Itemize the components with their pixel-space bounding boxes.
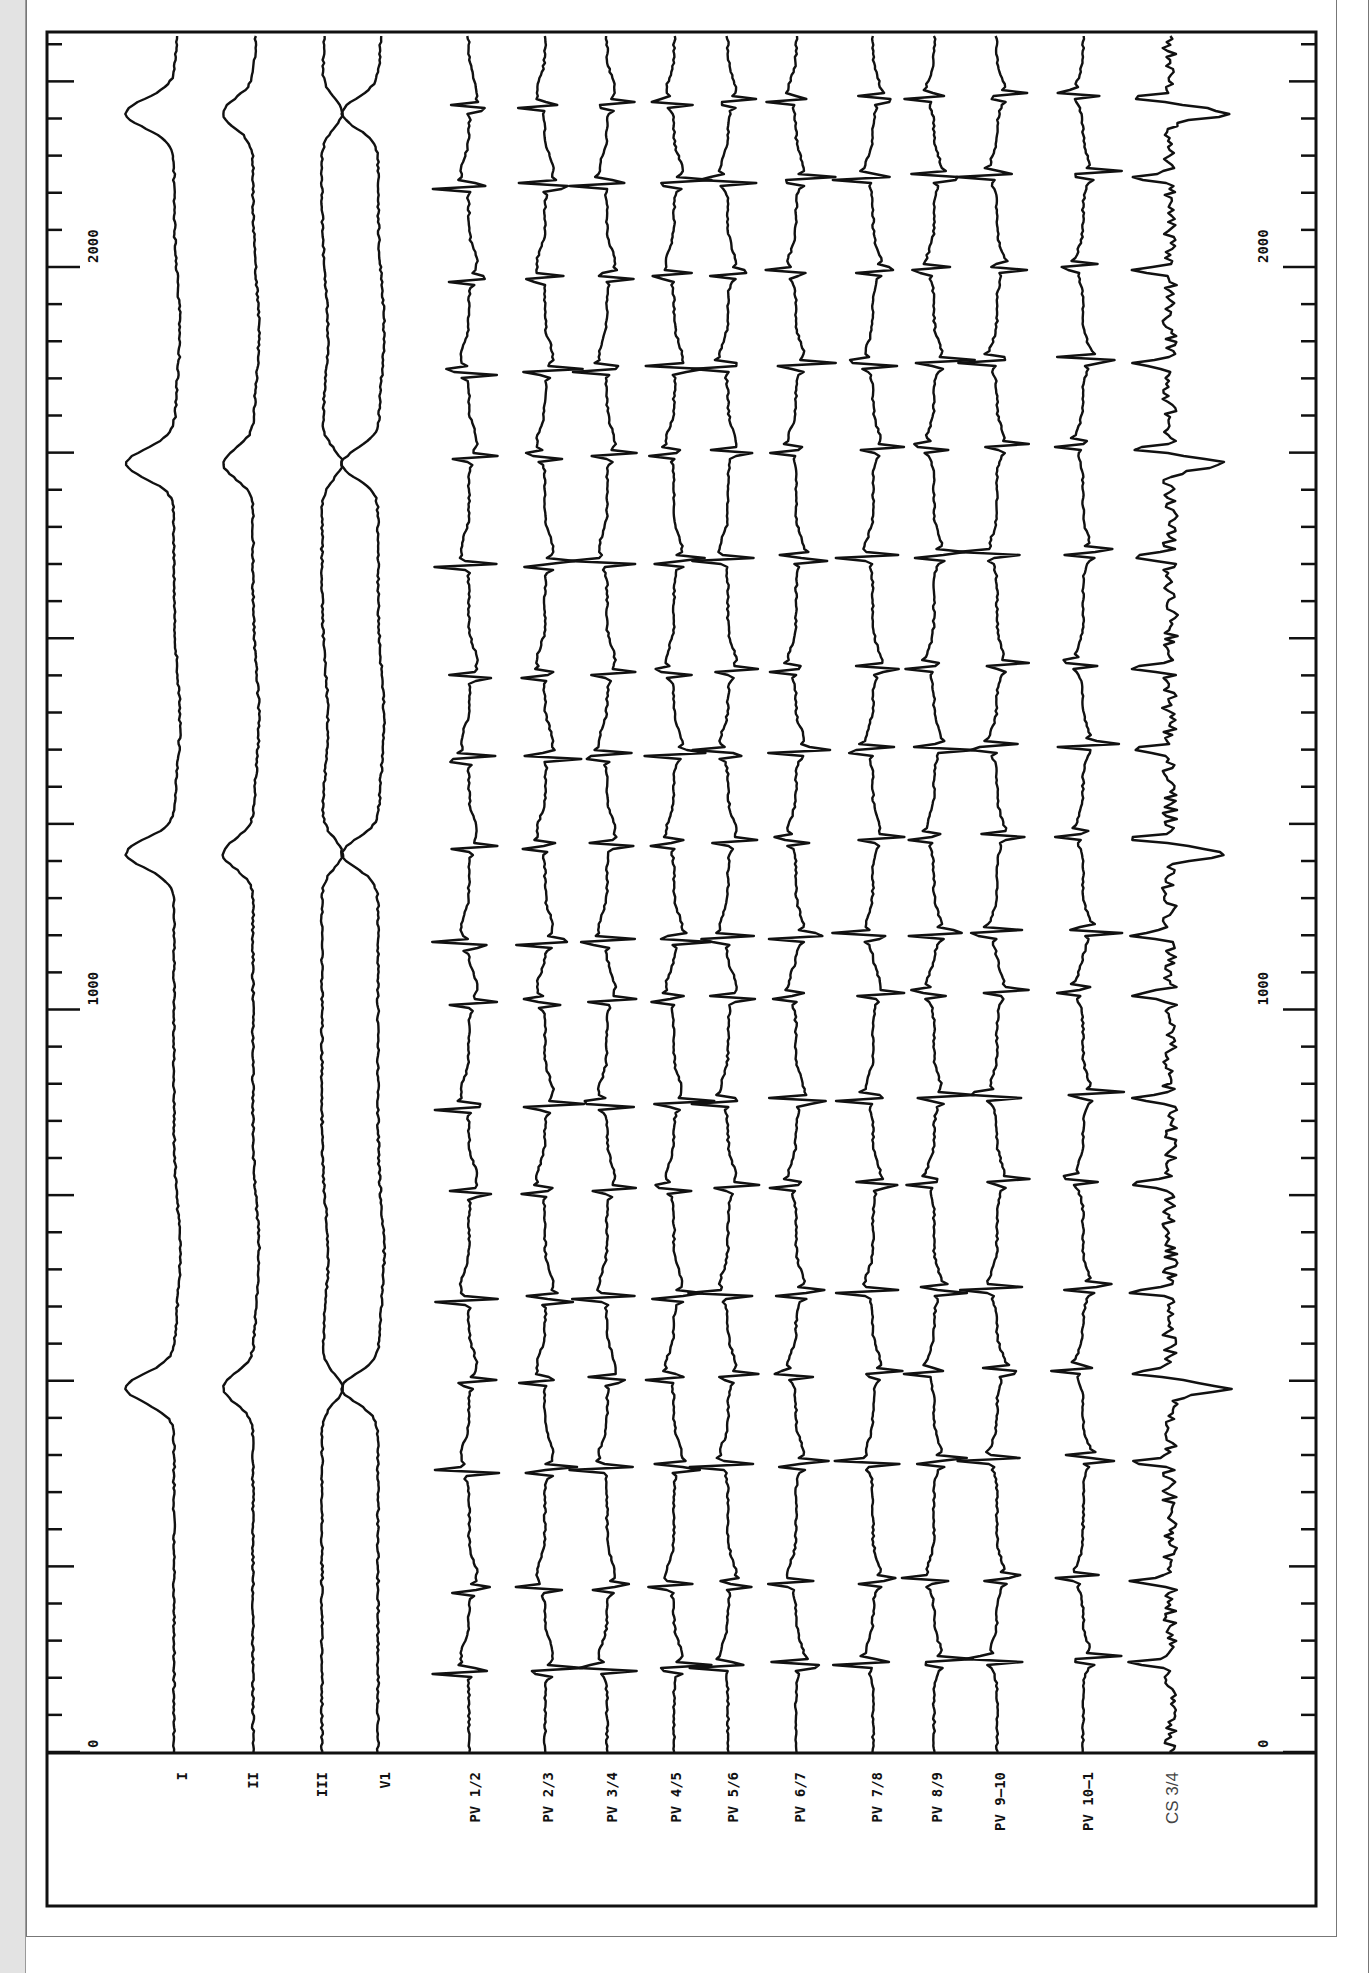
trace-pv-4-5 [645,36,715,1752]
trace-pv-7-8 [832,36,904,1752]
trace-pv-1-2 [432,36,499,1752]
traces [125,36,1231,1752]
channel-labels: IIIIIIV1PV 1/2PV 2/3PV 3/4PV 4/5PV 5/6PV… [174,1772,1182,1831]
trace-pv-9-10 [956,36,1029,1752]
time-axis-left: 010002000 [48,44,101,1752]
trace-pv-3-4 [569,36,636,1752]
channel-label: PV 8/9 [929,1772,945,1823]
trace-pv-5-6 [688,36,759,1752]
plot-border [47,32,1316,1906]
trace-pv-10-1 [1051,36,1124,1752]
channel-label: V1 [377,1772,393,1789]
channel-label: PV 7/8 [869,1772,885,1823]
channel-label: PV 10–1 [1080,1772,1096,1831]
channel-label: PV 9–10 [992,1772,1008,1831]
trace-i [125,36,181,1752]
ecg-chart: 010002000 010002000 IIIIIIV1PV 1/2PV 2/3… [0,0,1371,1973]
trace-iii [321,36,343,1752]
trace-pv-6-7 [766,36,836,1752]
channel-label: PV 6/7 [792,1772,808,1823]
channel-label: CS 3/4 [1163,1772,1182,1824]
trace-v1 [341,36,385,1752]
channel-label: I [174,1772,190,1780]
channel-label: PV 3/4 [604,1772,620,1823]
trace-pv-8-9 [902,36,975,1752]
tick-label-left: 2000 [85,229,101,263]
time-axis-right: 010002000 [1255,44,1315,1752]
channel-label: PV 5/6 [725,1772,741,1823]
channel-label: III [314,1772,330,1797]
tick-label-left: 1000 [85,972,101,1006]
trace-ii [223,36,260,1752]
tick-label-right: 2000 [1255,229,1271,263]
tick-label-right: 0 [1255,1740,1271,1748]
trace-cs-3-4 [1128,36,1231,1752]
tick-label-right: 1000 [1255,972,1271,1006]
channel-label: PV 2/3 [540,1772,556,1823]
trace-pv-2-3 [516,36,584,1752]
channel-label: PV 1/2 [467,1772,483,1823]
channel-label: II [245,1772,261,1789]
tick-label-left: 0 [85,1740,101,1748]
channel-label: PV 4/5 [668,1772,684,1823]
